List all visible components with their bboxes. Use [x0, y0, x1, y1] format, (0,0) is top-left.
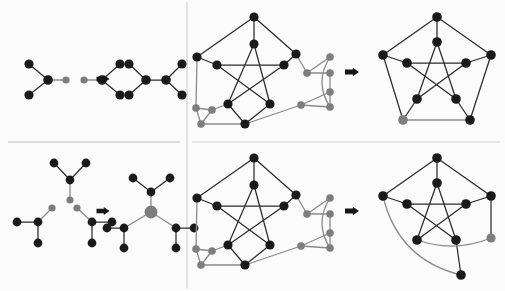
graph-edge-curved — [322, 198, 330, 248]
graph-node-black — [461, 199, 471, 209]
graph-node-black — [291, 190, 300, 199]
graph-node-gray — [197, 261, 205, 269]
rule-arrow-bottom-icon — [97, 207, 110, 215]
graph-edge — [217, 65, 270, 104]
graph-node-black — [412, 235, 422, 245]
graph-node-gray — [326, 194, 334, 202]
graph-node-black — [432, 178, 442, 188]
graph-node-gray — [208, 106, 216, 114]
graph-node-black — [141, 75, 151, 85]
graph-node-black — [412, 94, 422, 104]
graph-node-gray — [48, 204, 55, 211]
graph-edge — [197, 17, 254, 57]
graph-node-black — [465, 115, 475, 125]
rule-panel-top — [24, 59, 124, 99]
graph-node-black — [34, 239, 43, 248]
graph-edge — [217, 206, 270, 245]
graph-edge — [407, 204, 456, 240]
graph-node-black — [456, 270, 466, 280]
graph-edge — [197, 158, 254, 198]
graph-edge — [254, 158, 296, 195]
graph-edge — [407, 63, 456, 99]
graph-edge — [417, 204, 466, 240]
graph-edge — [245, 104, 270, 124]
graph-node-gray — [145, 206, 158, 219]
graph-edge — [196, 198, 197, 249]
graph-node-gray — [398, 115, 408, 125]
graph-edge — [254, 17, 296, 54]
graph-node-black — [378, 191, 388, 201]
graph-edge — [245, 246, 301, 265]
graph-node-black — [115, 90, 124, 99]
graph-node-black — [279, 60, 288, 69]
graph-edge — [383, 158, 437, 196]
graph-edge — [417, 63, 466, 99]
graph-node-gray — [486, 233, 495, 242]
graph-node-gray — [192, 104, 200, 112]
graph-node-black — [432, 37, 442, 47]
graph-edge — [437, 158, 491, 196]
graph-node-black — [82, 159, 91, 168]
rule-panel-bottom-result — [103, 174, 199, 253]
figure-root — [0, 0, 505, 291]
apply-arrow-top-icon — [345, 68, 359, 77]
graph-node-black — [66, 176, 75, 185]
graph-node-black — [486, 191, 496, 201]
graph-node-black — [172, 224, 181, 233]
graph-node-gray — [73, 204, 80, 211]
graph-node-gray — [62, 76, 69, 83]
graph-node-black — [461, 58, 471, 68]
input-graph-panel-top — [192, 12, 334, 128]
graph-node-black — [402, 58, 412, 68]
graph-edge — [437, 17, 491, 55]
graph-edge — [307, 198, 330, 214]
graph-node-black — [120, 244, 129, 253]
graph-node-black — [265, 99, 274, 108]
graph-edge — [383, 55, 403, 120]
graph-node-gray — [80, 76, 87, 83]
graph-node-black — [120, 224, 129, 233]
graph-node-gray — [66, 196, 73, 203]
rule-panel-bottom — [13, 159, 117, 248]
graph-edge — [301, 105, 330, 107]
graph-node-black — [223, 99, 232, 108]
graph-node-black — [115, 59, 124, 68]
graph-node-black — [432, 153, 442, 163]
graph-node-black — [212, 60, 221, 69]
result-graph-panel-top — [378, 12, 496, 125]
graph-node-gray — [297, 242, 305, 250]
graph-node-black — [43, 75, 53, 85]
graph-node-black — [451, 94, 461, 104]
graph-node-black — [451, 235, 461, 245]
graph-node-gray — [197, 120, 205, 128]
graph-node-black — [249, 153, 258, 162]
graph-node-gray — [326, 210, 334, 218]
graph-node-black — [24, 90, 33, 99]
graph-node-black — [192, 52, 201, 61]
graph-node-black — [161, 75, 171, 85]
rule-panel-top-result — [124, 59, 186, 99]
graph-node-black — [147, 188, 156, 197]
graph-node-gray — [326, 53, 334, 61]
graph-edge — [307, 57, 330, 73]
graph-edge — [470, 55, 491, 120]
figure-canvas — [0, 0, 505, 291]
graph-node-gray — [208, 247, 216, 255]
graph-node-black — [279, 201, 288, 210]
graph-edge — [245, 245, 270, 265]
graph-node-black — [129, 174, 138, 183]
graph-node-black — [432, 12, 442, 22]
graph-node-gray — [326, 103, 334, 111]
graph-node-gray — [303, 69, 311, 77]
graph-node-gray — [192, 245, 200, 253]
graph-node-black — [124, 59, 133, 68]
graph-node-black — [402, 199, 412, 209]
graph-edge — [301, 246, 330, 248]
graph-node-black — [24, 59, 33, 68]
graph-edge — [254, 185, 270, 245]
graph-node-black — [13, 218, 22, 227]
graph-node-black — [212, 201, 221, 210]
graph-node-black — [240, 260, 249, 269]
graph-node-black — [172, 244, 181, 253]
graph-node-black — [34, 218, 43, 227]
